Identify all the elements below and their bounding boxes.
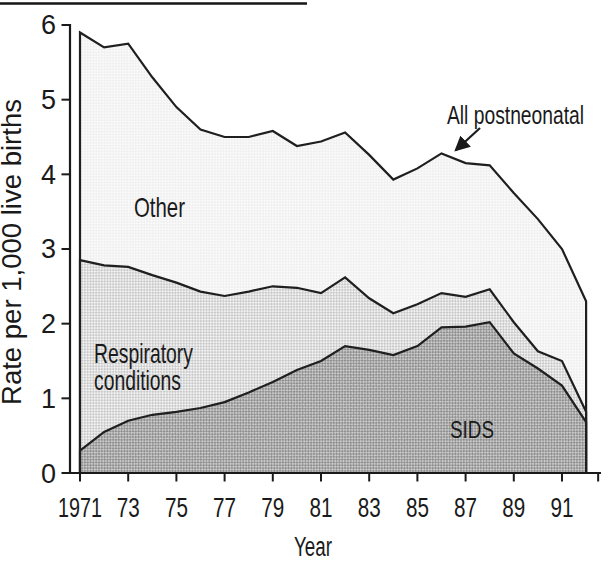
y-tick-label: 1 [41,384,56,414]
x-tick-label: 73 [117,493,140,523]
y-tick-label: 4 [41,160,56,190]
x-tick-label: 77 [213,493,236,523]
label-all-postneonatal: All postneonatal [447,101,584,129]
x-axis-title: Year [294,532,332,562]
areas [80,33,586,474]
y-tick-label: 5 [41,85,56,115]
x-tick-label: 83 [358,493,381,523]
y-tick-label: 3 [41,234,56,264]
x-tick-label: 79 [261,493,284,523]
x-tick-label: 89 [502,493,525,523]
x-tick-label: 81 [310,493,333,523]
x-tick-label: 85 [406,493,429,523]
y-tick-labels: 0123456 [41,10,56,488]
label-sids: SIDS [450,416,494,443]
y-tick-label: 2 [41,309,56,339]
x-tick-labels: 197173757779818385878991 [58,493,574,523]
postneonatal-mortality-chart: 0123456 197173757779818385878991 Rate pe… [0,0,615,570]
x-ticks [80,473,598,482]
label-respiratory-line2: conditions [94,365,181,396]
y-ticks [62,25,71,473]
x-tick-label: 75 [165,493,188,523]
x-tick-label: 87 [454,493,477,523]
label-other: Other [134,192,185,223]
y-axis-title: Rate per 1,000 live births [0,99,27,405]
y-tick-label: 6 [41,10,56,40]
callout-arrow [456,128,480,150]
x-tick-label: 91 [551,493,574,523]
y-tick-label: 0 [41,459,56,489]
x-tick-label: 1971 [58,493,102,523]
stacked-area-figure: 0123456 197173757779818385878991 Rate pe… [0,0,615,570]
